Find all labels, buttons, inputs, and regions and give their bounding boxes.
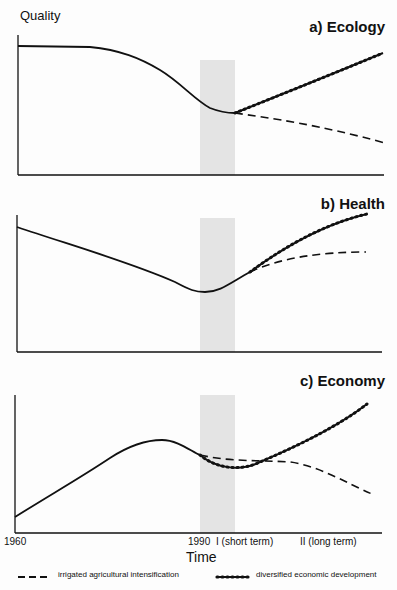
tick-1960: 1960	[4, 536, 26, 547]
tick-long-term: II (long term)	[300, 536, 357, 547]
dotted-line-diversified	[250, 214, 367, 272]
dashed-line-agri	[250, 252, 366, 272]
tick-short-term: I (short term)	[216, 536, 273, 547]
historical-line	[15, 440, 200, 517]
panel-title-health: b) Health	[321, 195, 385, 212]
panel-health	[17, 214, 382, 352]
transition-shade	[200, 218, 235, 352]
panel-ecology	[18, 35, 385, 175]
legend-dotted-label: diversified economic development	[256, 570, 377, 579]
panel-economy	[15, 395, 382, 533]
panel-title-economy: c) Economy	[300, 372, 385, 389]
transition-shade	[200, 60, 235, 175]
dashed-line-agri	[235, 113, 385, 143]
chart-canvas	[0, 0, 397, 590]
panel-title-ecology: a) Ecology	[309, 18, 385, 35]
dotted-line-markers	[235, 53, 383, 113]
dotted-line-markers	[250, 214, 367, 272]
x-axis-label: Time	[186, 549, 217, 565]
tick-1990: 1990	[188, 536, 210, 547]
legend-dashed-label: irrigated agricultural intensification	[58, 570, 179, 579]
y-axis-label: Quality	[20, 8, 60, 23]
